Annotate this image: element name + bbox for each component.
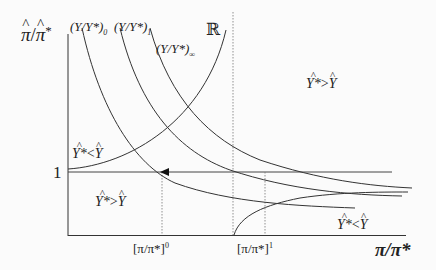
- y-axis-label-den: π: [36, 25, 46, 44]
- region-label-upper-right: Y*>Y: [306, 77, 337, 91]
- curve-label-inf: (Y/Y*)∞: [156, 42, 195, 59]
- region-label-upper-left: Y*<Y: [72, 147, 103, 161]
- x-tick-pi0: [π/π*]0: [133, 242, 169, 255]
- curve-label-1: (Y/Y*)1: [114, 20, 151, 37]
- region-label-lower-right: Y*<Y: [337, 218, 368, 232]
- x-axis-label: π/π*: [375, 240, 411, 259]
- region-label-lower-left: Y*>Y: [95, 195, 126, 209]
- y-axis-label-star: *: [45, 23, 52, 38]
- y-axis-label-num: π: [21, 25, 31, 44]
- diagram-lines: [0, 0, 436, 270]
- phase-diagram: π/π* (Y/Y*)0 (Y/Y*)1 (Y/Y*)∞ ℝ 1 Y*>Y Y*…: [0, 0, 436, 270]
- r-curve-lower: [234, 192, 408, 235]
- x-tick-pi1: [π/π*]1: [237, 242, 273, 255]
- curve-label-0: (Y/Y*)0: [70, 20, 107, 37]
- r-curve-label: ℝ: [206, 21, 220, 38]
- y-axis-label: π/π*: [21, 24, 52, 44]
- tick-one-label: 1: [53, 164, 62, 181]
